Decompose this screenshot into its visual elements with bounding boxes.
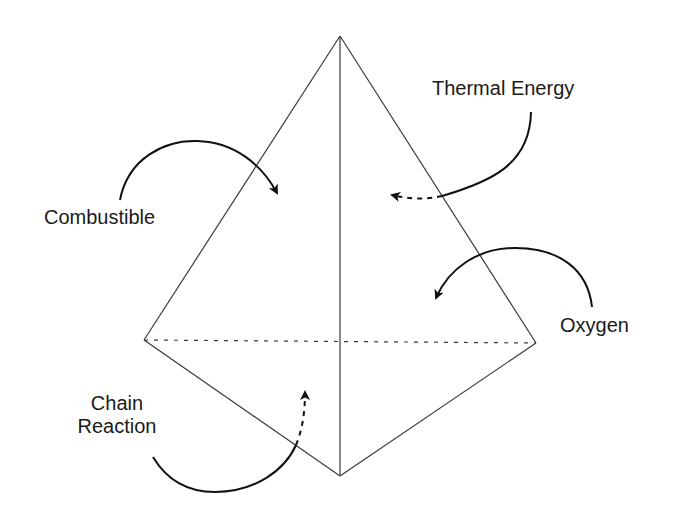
label-thermal-energy: Thermal Energy: [432, 77, 574, 100]
label-chain-reaction: Chain Reaction: [62, 392, 172, 438]
label-chain-reaction-line1: Chain: [62, 392, 172, 415]
label-chain-reaction-line2: Reaction: [62, 415, 172, 438]
edge-right-bottom: [340, 343, 536, 476]
label-oxygen: Oxygen: [560, 314, 629, 337]
edge-left-bottom: [144, 340, 340, 476]
edge-apex-left: [144, 36, 340, 340]
chain-reaction-arrow-dashed: [296, 392, 305, 445]
chain-reaction-arrow-solid: [153, 445, 296, 492]
thermal-energy-arrow-dashed: [392, 195, 442, 199]
oxygen-arrow: [436, 248, 592, 307]
label-combustible: Combustible: [44, 206, 155, 229]
thermal-energy-arrow-solid: [442, 112, 531, 196]
